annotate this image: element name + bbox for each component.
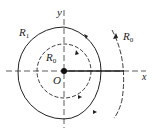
outer-spiral xyxy=(18,27,101,119)
r1-label: R1 xyxy=(18,26,30,40)
arrow-icon xyxy=(78,95,82,99)
y-label: y xyxy=(56,6,62,18)
phase-diagram: y x O R1 R0 R0 xyxy=(0,0,156,132)
x-label: x xyxy=(141,71,147,82)
arrow-icon xyxy=(75,50,79,55)
origin-point xyxy=(61,68,67,74)
right-arc xyxy=(112,30,124,118)
diagram-svg: y x O R1 R0 R0 xyxy=(0,0,156,132)
origin-label: O xyxy=(53,74,61,86)
r0-right-label: R0 xyxy=(122,30,134,44)
r0-inner-label: R0 xyxy=(45,51,57,65)
arrow-icon xyxy=(93,110,97,114)
